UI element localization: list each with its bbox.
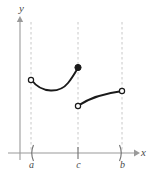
y-axis-arrowhead [17,16,23,22]
y-axis-label: y [19,3,24,14]
curve-right-branch [79,91,121,105]
open-endpoint-at-a [28,77,33,82]
x-axis-arrowhead [134,150,140,157]
filled-endpoint-at-c [75,64,81,70]
x-axis-label: x [141,147,146,158]
tick-label-c: c [73,160,84,170]
piecewise-function-figure: y x a c b [0,0,151,177]
open-endpoint-right-of-c [75,103,80,108]
curve-left-branch [32,68,78,90]
open-endpoint-at-b [119,88,124,93]
graph-canvas [0,0,151,177]
tick-label-b: b [117,160,128,170]
tick-label-a: a [26,160,37,170]
